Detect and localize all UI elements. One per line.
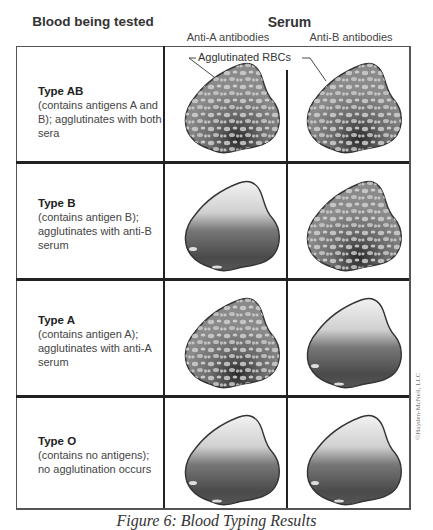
row-divider-1-overlay (16, 161, 411, 164)
row-type-ab-label: Type AB (contains antigens A and B); agg… (38, 84, 162, 140)
cell-ab-anti-b (297, 55, 419, 169)
cell-o-anti-a (175, 407, 297, 521)
figure-caption: Figure 6: Blood Typing Results (0, 512, 433, 530)
copyright-notice: ©Hayden-McNeil, LLC (414, 360, 422, 440)
cell-a-anti-a (175, 290, 297, 404)
row-divider-3-overlay (16, 395, 411, 398)
row-divider-2-overlay (16, 278, 411, 281)
table-right-border (409, 46, 411, 510)
cell-b-anti-b (297, 173, 419, 287)
cell-o-anti-b (297, 407, 419, 521)
cell-ab-anti-a (175, 55, 297, 169)
row-type-a-label: Type A (contains antigen A); agglutinate… (38, 313, 162, 369)
column-divider-2-overlay (286, 70, 288, 510)
table-bottom-border (16, 508, 411, 510)
row-type-o-label: Type O (contains no antigens); no agglut… (38, 434, 162, 476)
cell-b-anti-a (175, 173, 297, 287)
row-type-b-label: Type B (contains antigen B); agglutinate… (38, 196, 162, 252)
cell-a-anti-b (297, 290, 419, 404)
